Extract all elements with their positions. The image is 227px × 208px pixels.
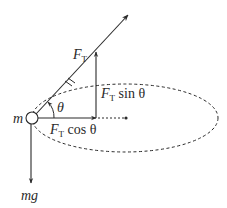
weight-label: mg (21, 188, 38, 203)
conical-pendulum-diagram: m FT FT sin θ FT cos θ θ mg (0, 0, 227, 208)
tension-label: FT (72, 47, 88, 64)
angle-label: θ (57, 100, 64, 115)
center-dot (124, 116, 127, 119)
horizontal-component-label: FT cos θ (49, 122, 97, 139)
string-tick-marks (65, 78, 75, 86)
angle-arc (48, 102, 54, 118)
vertical-component-label: FT sin θ (100, 86, 145, 103)
mass-circle (26, 112, 38, 124)
mass-label: m (13, 111, 23, 126)
